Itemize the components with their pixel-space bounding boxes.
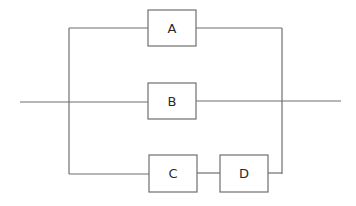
block-d: D — [220, 155, 268, 192]
block-b: B — [148, 83, 196, 119]
block-b-label: B — [168, 94, 177, 109]
block-d-label: D — [239, 166, 249, 181]
block-a: A — [148, 10, 196, 46]
block-c: C — [149, 155, 197, 192]
reliability-block-diagram: A B C D — [0, 0, 356, 206]
block-c-label: C — [168, 166, 177, 181]
block-a-label: A — [168, 21, 177, 36]
